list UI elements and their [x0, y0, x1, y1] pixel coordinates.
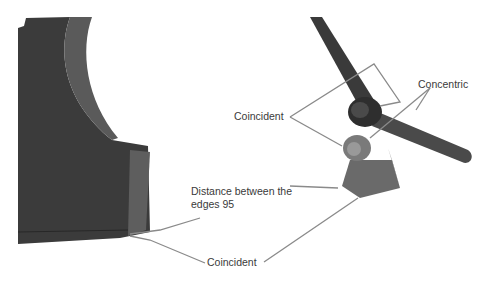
distance-label-line1: Distance between the — [191, 185, 292, 197]
joint-ring — [348, 97, 382, 127]
bracket-block — [342, 135, 400, 198]
coincident-label-top: Coincident — [234, 110, 284, 122]
distance-label-line2: edges 95 — [191, 198, 234, 210]
assembly-diagram — [0, 0, 487, 286]
rod-lower — [372, 112, 472, 163]
plate-part — [18, 17, 150, 244]
coincident-label-bottom: Coincident — [207, 256, 257, 268]
rod-upper — [310, 17, 374, 108]
concentric-label: Concentric — [418, 78, 468, 90]
